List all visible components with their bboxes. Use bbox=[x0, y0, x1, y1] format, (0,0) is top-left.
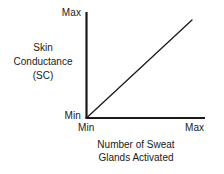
y-axis-title: Skin Conductance (SC) bbox=[4, 41, 82, 83]
y-axis-tick-max: Max bbox=[62, 7, 81, 18]
x-axis-tick-min: Min bbox=[78, 122, 94, 133]
y-axis-title-line-3: (SC) bbox=[4, 69, 82, 83]
y-axis-title-line-1: Skin bbox=[4, 41, 82, 55]
x-axis-title-line-2: Glands Activated bbox=[74, 151, 198, 164]
y-axis-title-line-2: Conductance bbox=[4, 55, 82, 69]
x-axis-title-line-1: Number of Sweat bbox=[74, 138, 198, 151]
x-axis-tick-max: Max bbox=[185, 122, 204, 133]
skin-conductance-figure: Max Min Min Max Skin Conductance (SC) Nu… bbox=[0, 0, 224, 174]
x-axis-title: Number of Sweat Glands Activated bbox=[74, 138, 198, 164]
data-line-series-1 bbox=[87, 20, 192, 118]
y-axis-tick-min: Min bbox=[65, 110, 81, 121]
